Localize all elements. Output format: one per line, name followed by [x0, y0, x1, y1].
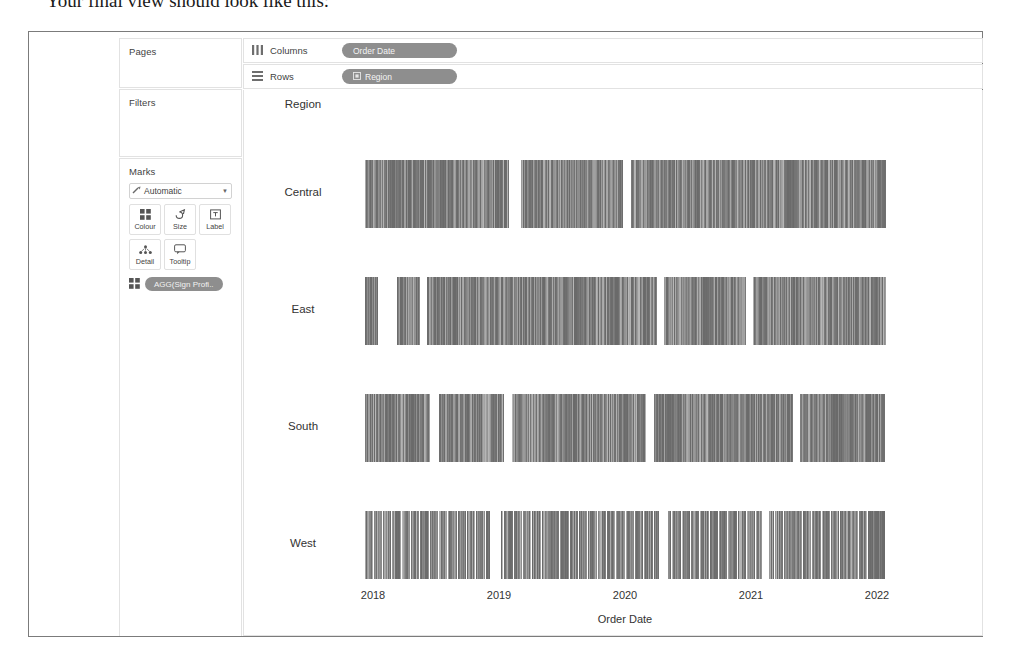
instruction-caption: Your final view should look like this: — [46, 0, 946, 10]
dimension-icon — [353, 72, 361, 81]
colour-button[interactable]: Colour — [129, 204, 161, 235]
marks-pill-row: AGG(Sign Profi.. — [129, 275, 223, 293]
size-label: Size — [173, 222, 187, 231]
columns-icon — [244, 45, 270, 57]
mark-bar[interactable] — [885, 160, 886, 228]
mark-band-east[interactable] — [362, 277, 888, 345]
rows-icon — [244, 71, 270, 83]
marks-colour-pill[interactable]: AGG(Sign Profi.. — [145, 277, 223, 291]
mark-type-label: Automatic — [144, 186, 219, 196]
filters-title: Filters — [120, 90, 241, 108]
detail-button[interactable]: Detail — [129, 239, 161, 270]
x-tick-2022: 2022 — [865, 589, 889, 601]
x-axis-title: Order Date — [362, 613, 888, 625]
label-icon — [210, 208, 221, 221]
mark-bar[interactable] — [489, 511, 490, 579]
label-button[interactable]: Label — [199, 204, 231, 235]
rows-shelf[interactable]: Rows Region — [243, 64, 983, 89]
columns-pill-order-date[interactable]: Order Date — [342, 43, 457, 58]
detail-icon — [139, 243, 152, 256]
mark-bar[interactable] — [792, 394, 793, 462]
mark-band-central[interactable] — [362, 160, 888, 228]
mark-bar[interactable] — [645, 394, 646, 462]
filters-card[interactable]: Filters — [119, 89, 242, 157]
row-header-west: West — [244, 537, 362, 549]
pages-title: Pages — [120, 39, 241, 57]
colour-label: Colour — [134, 222, 155, 231]
mark-bar[interactable] — [656, 277, 657, 345]
tableau-screenshot-frame: Pages Filters Marks Automatic ▼ Colour — [28, 31, 983, 637]
mark-bar[interactable] — [508, 160, 509, 228]
x-tick-2018: 2018 — [361, 589, 385, 601]
mark-band-south[interactable] — [362, 394, 888, 462]
x-tick-2019: 2019 — [487, 589, 511, 601]
mark-bar[interactable] — [419, 277, 420, 345]
colour-icon — [129, 275, 140, 293]
row-header-title: Region — [244, 98, 362, 110]
tooltip-label: Tooltip — [170, 257, 191, 266]
x-tick-2020: 2020 — [613, 589, 637, 601]
size-icon — [174, 208, 186, 221]
size-button[interactable]: Size — [164, 204, 196, 235]
view-pane: Region CentralEastSouthWest 201820192020… — [243, 90, 983, 636]
x-tick-2021: 2021 — [739, 589, 763, 601]
left-sidebar: Pages Filters Marks Automatic ▼ Colour — [119, 32, 242, 636]
detail-label: Detail — [136, 257, 154, 266]
mark-bar[interactable] — [503, 394, 504, 462]
mark-bar[interactable] — [884, 511, 885, 579]
mark-bar[interactable] — [761, 511, 762, 579]
columns-label: Columns — [270, 45, 342, 56]
columns-shelf[interactable]: Columns Order Date — [243, 38, 983, 63]
mark-bar[interactable] — [884, 394, 885, 462]
mark-type-dropdown[interactable]: Automatic ▼ — [129, 183, 232, 199]
mark-bar[interactable] — [377, 277, 378, 345]
mark-bar[interactable] — [745, 277, 746, 345]
mark-bar[interactable] — [429, 394, 430, 462]
row-header-east: East — [244, 303, 362, 315]
columns-pill-label: Order Date — [353, 46, 395, 56]
mark-bar[interactable] — [658, 511, 659, 579]
row-header-central: Central — [244, 186, 362, 198]
mark-bar[interactable] — [622, 160, 623, 228]
mark-bar[interactable] — [885, 277, 886, 345]
tooltip-icon — [174, 243, 186, 256]
chevron-down-icon[interactable]: ▼ — [219, 188, 231, 194]
rows-pill-region[interactable]: Region — [342, 69, 457, 84]
rows-label: Rows — [270, 71, 342, 82]
pages-card[interactable]: Pages — [119, 38, 242, 88]
automatic-mark-icon — [130, 186, 144, 197]
marks-title: Marks — [120, 159, 241, 177]
rows-pill-label: Region — [365, 72, 392, 82]
row-header-south: South — [244, 420, 362, 432]
tooltip-button[interactable]: Tooltip — [164, 239, 196, 270]
colour-icon — [140, 208, 151, 221]
label-label: Label — [206, 222, 224, 231]
mark-band-west[interactable] — [362, 511, 888, 579]
marks-button-row-secondary: Detail Tooltip — [129, 239, 196, 270]
marks-card: Marks Automatic ▼ Colour — [119, 158, 242, 636]
marks-button-row-primary: Colour Size Label — [129, 204, 231, 235]
